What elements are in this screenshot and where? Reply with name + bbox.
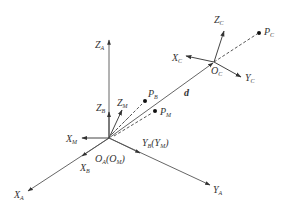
axis-yb [109,138,140,153]
dashed-pb-2 [111,114,132,135]
label-pb: PB [148,89,158,100]
coordinate-frames-diagram [0,0,285,212]
label-origin-c: OC [211,66,222,77]
label-d: d [184,88,189,98]
label-xa: XA [14,190,24,201]
label-ya: YA [213,185,222,196]
dashed-pm [114,113,152,136]
label-pc: PC [264,27,274,38]
label-zb: ZB [96,103,105,114]
label-zc: ZC [214,15,224,26]
label-yb: YB(YM) [142,138,168,149]
dashed-pc [214,34,257,62]
label-za: ZA [95,40,104,51]
label-origin-a: OA(OM) [95,154,125,165]
point-pb [143,99,147,103]
point-pm [153,109,157,113]
axis-xc [186,56,214,62]
axis-zc [214,31,224,62]
label-xm: XM [66,134,77,145]
label-xb: XB [80,163,90,174]
label-xc: XC [172,53,182,64]
label-pm: PM [160,107,171,118]
point-pc [257,31,261,35]
label-yc: YC [245,73,255,84]
label-zm: ZM [117,98,128,109]
